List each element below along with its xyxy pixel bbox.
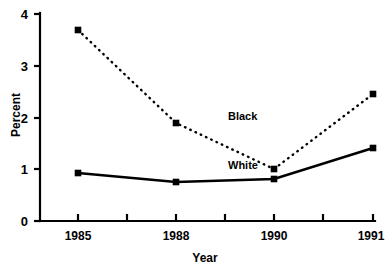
series-line-white [78, 148, 373, 182]
x-tick-label-1990: 1990 [261, 230, 288, 242]
y-tick-label-4: 4 [8, 8, 28, 21]
x-axis-title: Year [192, 252, 217, 264]
x-tick-label-1988: 1988 [163, 230, 190, 242]
x-tick-label-1991: 1991 [358, 230, 385, 242]
y-axis-title: Percent [10, 93, 22, 137]
y-tick-label-1: 1 [8, 163, 28, 176]
series-label-black: Black [228, 111, 257, 122]
series-line-black [78, 30, 373, 169]
x-tick-label-1985: 1985 [65, 230, 92, 242]
chart-container: 4 3 2 1 0 1985 1988 1990 1991 Percent Ye… [0, 0, 390, 271]
y-tick-label-3: 3 [8, 60, 28, 73]
chart-plot-area [0, 0, 390, 271]
y-tick-label-0: 0 [8, 215, 28, 228]
series-markers-black [75, 27, 377, 173]
series-label-white: White [228, 160, 258, 171]
